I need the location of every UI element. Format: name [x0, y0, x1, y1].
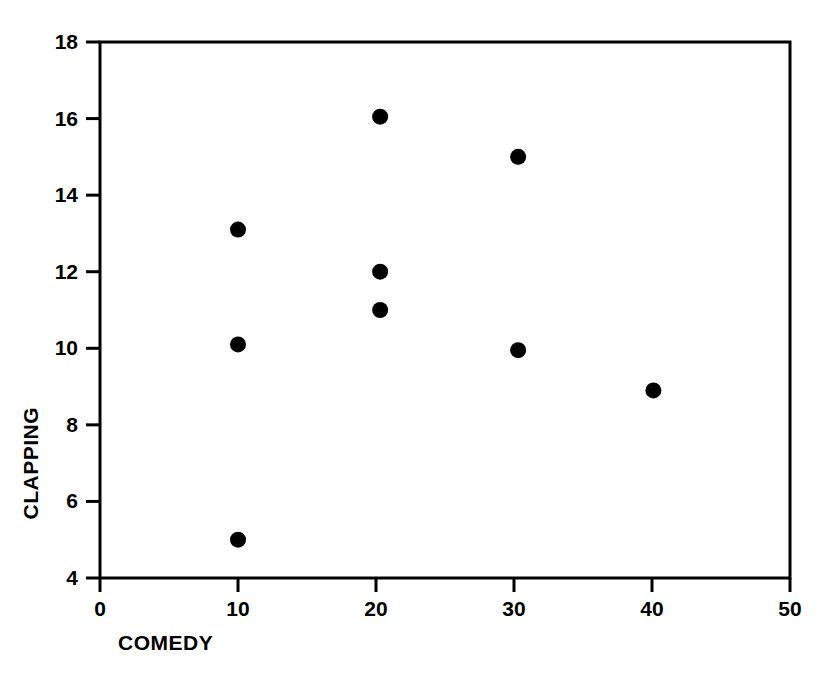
- x-axis-tick-labels: 01020304050: [94, 597, 802, 620]
- x-tick-label: 20: [364, 597, 387, 620]
- scatter-plot-figure: 4681012141618 01020304050 CLAPPING COMED…: [0, 0, 839, 680]
- y-tick-label: 16: [55, 107, 78, 130]
- data-point: [645, 382, 661, 398]
- x-tick-label: 30: [502, 597, 525, 620]
- data-point: [230, 336, 246, 352]
- x-tick-label: 50: [778, 597, 801, 620]
- y-tick-label: 18: [55, 30, 79, 53]
- y-tick-label: 12: [55, 260, 78, 283]
- y-axis-title: CLAPPING: [19, 407, 42, 520]
- data-point: [230, 222, 246, 238]
- data-point: [372, 109, 388, 125]
- y-tick-label: 14: [55, 183, 79, 206]
- x-axis-ticks: [100, 578, 790, 592]
- x-tick-label: 10: [226, 597, 249, 620]
- y-axis-tick-labels: 4681012141618: [55, 30, 79, 589]
- plot-frame: [100, 42, 790, 578]
- x-axis-title: COMEDY: [118, 631, 213, 654]
- data-point: [372, 302, 388, 318]
- y-axis-ticks: [86, 42, 100, 578]
- y-tick-label: 6: [66, 489, 78, 512]
- data-point: [372, 264, 388, 280]
- x-tick-label: 0: [94, 597, 106, 620]
- data-point: [230, 532, 246, 548]
- data-point: [510, 342, 526, 358]
- x-tick-label: 40: [640, 597, 663, 620]
- y-tick-label: 10: [55, 336, 78, 359]
- y-tick-label: 8: [66, 413, 78, 436]
- data-point-layer: [230, 109, 661, 548]
- chart-canvas: 4681012141618 01020304050 CLAPPING COMED…: [0, 0, 839, 680]
- plot-border: [100, 42, 790, 578]
- y-tick-label: 4: [66, 566, 78, 589]
- data-point: [510, 149, 526, 165]
